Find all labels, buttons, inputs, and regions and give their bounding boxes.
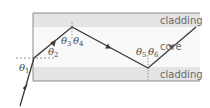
fiber-diagram: θ1 θ2 θ3 θ4 θ5 θ6 cladding core cladding — [0, 0, 210, 108]
bottom-cladding-label: cladding — [160, 69, 203, 80]
top-cladding-label: cladding — [160, 15, 203, 26]
core-label: core — [160, 41, 182, 52]
arrow-icon — [23, 84, 28, 91]
theta1-label: θ1 — [19, 62, 30, 75]
